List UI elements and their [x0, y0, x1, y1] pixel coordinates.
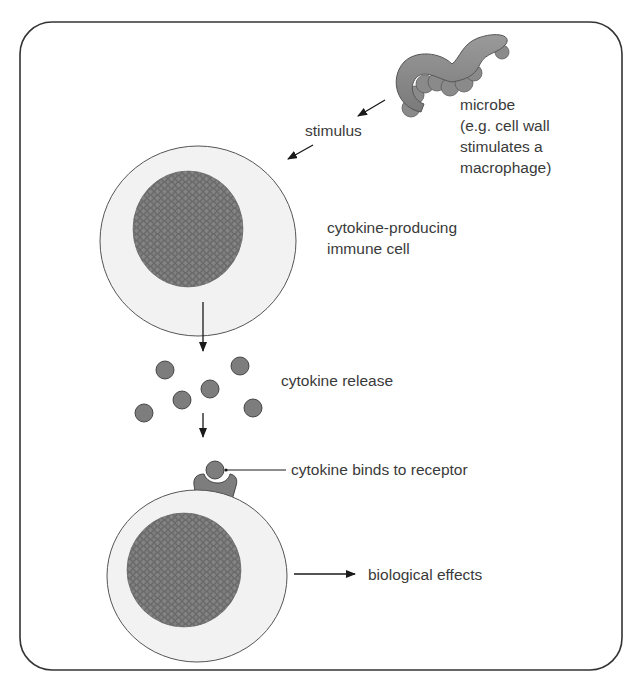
cytokine-release-label: cytokine release — [281, 372, 393, 389]
cytokine — [201, 380, 219, 398]
microbe-label-line4: macrophage) — [460, 159, 551, 176]
cytokine-diagram: microbe (e.g. cell wall stimulates a mac… — [0, 0, 634, 684]
producing-cell-label-line2: immune cell — [327, 240, 410, 257]
cytokine-producing-cell — [100, 146, 296, 336]
cytokine — [156, 361, 174, 379]
effects-label: biological effects — [368, 566, 483, 583]
target-nucleus-granules — [127, 513, 241, 627]
producing-cell-label: cytokine-producing — [327, 219, 457, 236]
microbe-label-line2: (e.g. cell wall — [460, 117, 550, 134]
bound-cytokine — [206, 461, 224, 479]
microbe-label: microbe — [460, 96, 515, 113]
nucleus-granules — [133, 171, 243, 287]
target-cell — [107, 490, 287, 662]
cytokine — [135, 404, 153, 422]
cytokine — [244, 399, 262, 417]
cytokine — [231, 357, 249, 375]
stimulus-label: stimulus — [305, 122, 362, 139]
cytokine — [173, 391, 191, 409]
binding-label: cytokine binds to receptor — [291, 461, 468, 478]
microbe-label-line3: stimulates a — [460, 138, 543, 155]
